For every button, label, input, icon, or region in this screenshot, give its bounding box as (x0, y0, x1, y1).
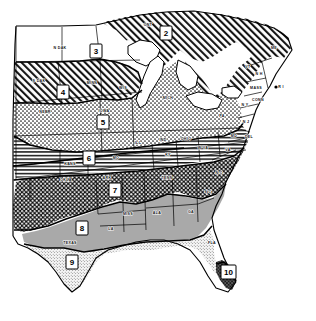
zone-number-label: 8 (80, 224, 85, 233)
zone-number-label: 9 (70, 258, 75, 267)
zone-number-box-4[interactable]: 4 (57, 85, 69, 99)
state-label: MISS (123, 212, 133, 216)
state-label: N J (243, 120, 250, 124)
zone-number-label: 10 (224, 268, 233, 277)
zone-number-label: 3 (94, 47, 99, 56)
state-label: VA (225, 148, 230, 152)
state-label: N H (255, 72, 262, 76)
state-label: GA (188, 210, 194, 214)
state-label: OKLA (60, 178, 72, 182)
state-label: IND (159, 138, 166, 142)
state-label: NEBR (39, 110, 51, 114)
state-label: MICH (163, 96, 174, 100)
zone-number-box-9[interactable]: 9 (66, 255, 78, 269)
state-label: R I (278, 85, 284, 89)
map-canvas: N DAK S DAK NEBR MINN WIS IOWA ONT MICH … (0, 0, 316, 321)
state-label: ARK (103, 176, 112, 180)
zone-number-box-3[interactable]: 3 (90, 44, 102, 58)
hardiness-zone-map: N DAK S DAK NEBR MINN WIS IOWA ONT MICH … (0, 0, 316, 321)
state-label: KANS (64, 162, 76, 166)
state-label: WIS (119, 86, 127, 90)
zone-number-box-8[interactable]: 8 (76, 221, 88, 235)
zone-number-box-6[interactable]: 6 (83, 151, 95, 165)
state-label: TEXAS (63, 241, 77, 245)
state-label: PA (219, 114, 224, 118)
state-label: MD (231, 134, 237, 138)
state-label: LA (108, 227, 114, 231)
state-label: N Y (242, 103, 249, 107)
state-label: CONN (252, 98, 264, 102)
zone-number-box-10[interactable]: 10 (221, 265, 236, 279)
state-label: S C (204, 190, 211, 194)
state-label: N C (215, 171, 222, 175)
state-label: N DAK (53, 46, 66, 50)
zone-number-label: 2 (164, 29, 169, 38)
state-label: KY (165, 153, 171, 157)
zone-number-label: 6 (87, 154, 92, 163)
state-label: OHIO (181, 137, 192, 141)
state-label: ME (271, 46, 277, 50)
state-label: S DAK (33, 79, 46, 83)
zone-number-box-5[interactable]: 5 (97, 115, 109, 129)
state-label: FLA (208, 241, 216, 245)
zone-number-box-2[interactable]: 2 (160, 26, 172, 40)
state-label: ALA (153, 211, 161, 215)
state-label: MO (113, 156, 120, 160)
state-label: DEL (245, 135, 254, 139)
state-label: MINN (87, 81, 98, 85)
zone-number-box-7[interactable]: 7 (109, 183, 121, 197)
state-label: ILL (135, 141, 142, 145)
state-label: VT (245, 65, 251, 69)
state-label: W VA (198, 146, 209, 150)
state-label: TENN (161, 176, 172, 180)
zone-number-label: 7 (113, 186, 118, 195)
zone-number-label: 5 (101, 118, 106, 127)
zone-number-label: 4 (61, 88, 66, 97)
state-label: ONT (144, 23, 153, 27)
state-label: MASS (250, 86, 262, 90)
state-label: IOWA (99, 109, 110, 113)
